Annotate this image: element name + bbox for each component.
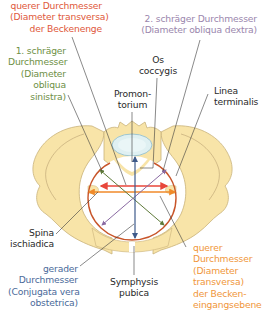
label-spina-ischiadica: Spina ischiadica — [4, 227, 54, 250]
label-line: Os — [138, 54, 178, 65]
label-line: obstetrica) — [8, 297, 78, 308]
label-linea-terminalis: Linea terminalis — [214, 85, 264, 108]
label-line: Symphysis — [108, 276, 160, 287]
label-conjugata: gerader Durchmesser (Conjugata vera obst… — [8, 263, 78, 309]
label-line: (Conjugata vera — [8, 286, 78, 297]
label-os-coccygis: Os coccygis — [138, 54, 178, 77]
label-line: querer Durchmesser — [10, 0, 102, 11]
label-line: Spina — [4, 227, 54, 238]
label-transverse-outlet: querer Durchmesser (Diameter transversa)… — [10, 0, 102, 34]
label-line: der Becken- — [193, 288, 265, 299]
label-line: (Diameter — [193, 265, 265, 276]
label-line: 1. schräger — [8, 45, 66, 56]
label-line: 2. schräger Durchmesser — [140, 13, 257, 24]
label-oblique-1: 1. schräger Durchmesser (Diameter obliqu… — [8, 45, 66, 102]
label-line: (Diameter — [8, 68, 66, 79]
label-transverse-inlet: querer Durchmesser (Diameter transversa)… — [193, 242, 265, 310]
label-line: obliqua — [8, 79, 66, 90]
label-line: sinistra) — [8, 91, 66, 102]
label-line: der Beckenenge — [10, 23, 102, 34]
label-line: eingangsebene — [193, 299, 265, 310]
label-line: gerader — [8, 263, 78, 274]
label-line: torium — [110, 99, 155, 110]
label-symphysis: Symphysis pubica — [108, 276, 160, 299]
label-line: Linea — [214, 85, 264, 96]
label-line: (Diameter transversa) — [10, 11, 102, 22]
label-oblique-2: 2. schräger Durchmesser (Diameter obliqu… — [140, 13, 257, 36]
label-line: Durchmesser — [8, 274, 78, 285]
label-line: Durchmesser — [193, 253, 265, 264]
label-line: (Diameter obliqua dextra) — [140, 24, 257, 35]
label-line: terminalis — [214, 96, 264, 107]
label-line: Durchmesser — [8, 56, 66, 67]
label-line: coccygis — [138, 65, 178, 76]
label-line: Promon- — [110, 88, 155, 99]
label-line: pubica — [108, 287, 160, 298]
label-promontorium: Promon- torium — [110, 88, 155, 111]
label-line: ischiadica — [4, 238, 54, 249]
label-line: transversa) — [193, 276, 265, 287]
label-line: querer — [193, 242, 265, 253]
